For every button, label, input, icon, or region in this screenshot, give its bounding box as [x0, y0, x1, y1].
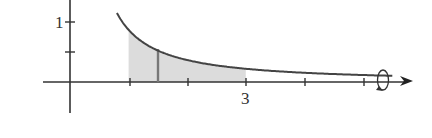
rotation-arrowhead-icon	[376, 86, 383, 91]
y-tick-label-1: 1	[55, 13, 64, 32]
x-axis-arrow-icon	[400, 76, 413, 86]
x-tick-label-3: 3	[241, 89, 250, 108]
shaded-region	[129, 30, 246, 82]
figure: 1 3	[0, 0, 432, 138]
